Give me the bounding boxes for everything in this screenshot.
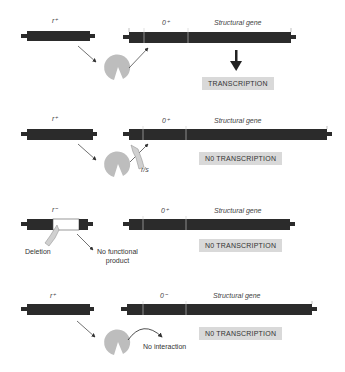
mutation-label: r/s — [141, 166, 149, 173]
panel-transcription: r⁺ 0⁺ Structural gene TRANSCRIPTION — [0, 0, 345, 93]
result-badge: N0 TRANSCRIPTION — [199, 327, 282, 340]
arrow-to-repressor — [77, 321, 95, 337]
regulator-label: r⁺ — [50, 292, 56, 300]
regulator-gene — [21, 304, 94, 315]
panel-operator-mutant: r⁺ 0⁻ Structural gene No interaction N0 … — [0, 279, 345, 372]
repressor-icon — [104, 54, 130, 80]
regulator-gene — [21, 31, 95, 41]
repressor-icon — [104, 151, 130, 177]
regulator-label: r⁻ — [52, 206, 58, 214]
panel-mutant-repressor: r⁺ 0⁺ Structural gene r/s N0 TRANSCRIPTI… — [0, 100, 345, 193]
result-badge: TRANSCRIPTION — [202, 77, 274, 90]
repressor-icon — [104, 329, 130, 355]
regulator-label: r⁺ — [52, 17, 58, 25]
arrow-to-operator — [129, 48, 148, 68]
structural-gene-label: Structural gene — [214, 19, 261, 26]
no-interaction-note: No interaction — [143, 342, 186, 351]
curved-arrow-no-interaction — [128, 329, 162, 340]
result-badge: N0 TRANSCRIPTION — [199, 152, 282, 165]
operator-label: 0⁻ — [160, 292, 168, 300]
arrow-to-repressor — [78, 144, 96, 160]
structural-gene-label: Structural gene — [214, 207, 261, 214]
arrow-to-note — [77, 234, 93, 250]
operator-label: 0⁺ — [161, 207, 169, 215]
arrow-to-repressor — [78, 46, 96, 62]
regulator-label: r⁺ — [52, 115, 58, 123]
regulator-gene — [21, 129, 97, 140]
transcription-arrow-icon — [230, 50, 242, 71]
structural-gene-label: Structural gene — [214, 117, 261, 124]
deletion-label: Deletion — [25, 247, 51, 256]
result-badge: N0 TRANSCRIPTION — [199, 239, 282, 252]
structural-gene-label: Structural gene — [213, 292, 260, 299]
operon-dna — [123, 28, 296, 43]
operon-dna — [123, 126, 332, 140]
no-functional-product-note: No functional product — [97, 247, 138, 265]
operon-dna — [123, 216, 295, 230]
panel-2-graphics — [0, 100, 345, 193]
operator-label: 0⁺ — [162, 117, 170, 125]
panel-1-graphics — [0, 0, 345, 93]
operator-label: 0⁺ — [162, 19, 170, 27]
operon-dna — [121, 301, 317, 315]
